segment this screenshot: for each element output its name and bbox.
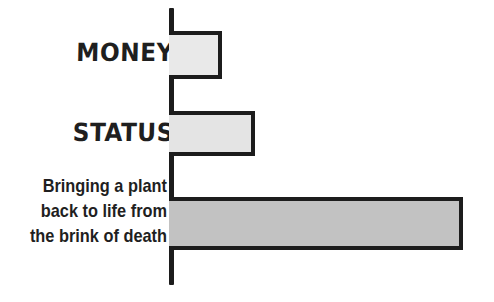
bar-plant (169, 197, 463, 250)
bar-status (169, 111, 255, 156)
category-label-plant-line-3: the brink of death (0, 223, 167, 248)
bar-money (169, 31, 222, 79)
category-label-plant-line-2: back to life from (0, 198, 167, 223)
bar-money-fill (169, 35, 218, 75)
category-label-plant-line-1: Bringing a plant (0, 173, 167, 198)
category-label-money: MONEY (76, 38, 174, 67)
bar-plant-fill (169, 201, 459, 246)
bar-chart: MONEY STATUS Bringing a plant back to li… (0, 0, 494, 302)
category-label-plant: Bringing a plant back to life from the b… (0, 173, 167, 248)
bar-status-fill (169, 115, 251, 152)
category-label-status: STATUS (72, 118, 174, 147)
